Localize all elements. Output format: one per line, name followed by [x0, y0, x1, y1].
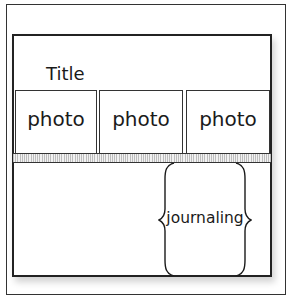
journaling-label: journaling	[158, 163, 252, 276]
photo-slot-label: photo	[112, 107, 170, 131]
photo-slot-2: photo	[99, 90, 183, 154]
title-label: Title	[46, 64, 85, 84]
photo-slot-label: photo	[199, 107, 257, 131]
patterned-paper-strip	[13, 153, 271, 163]
photo-slot-1: photo	[15, 90, 97, 154]
photo-slot-3: photo	[186, 90, 270, 154]
photo-slot-label: photo	[27, 107, 85, 131]
journaling-block: journaling	[158, 163, 252, 276]
